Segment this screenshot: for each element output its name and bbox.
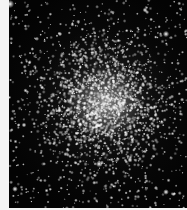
star-field [9, 0, 187, 208]
star-cluster-image [9, 0, 187, 208]
image-frame [0, 0, 187, 210]
